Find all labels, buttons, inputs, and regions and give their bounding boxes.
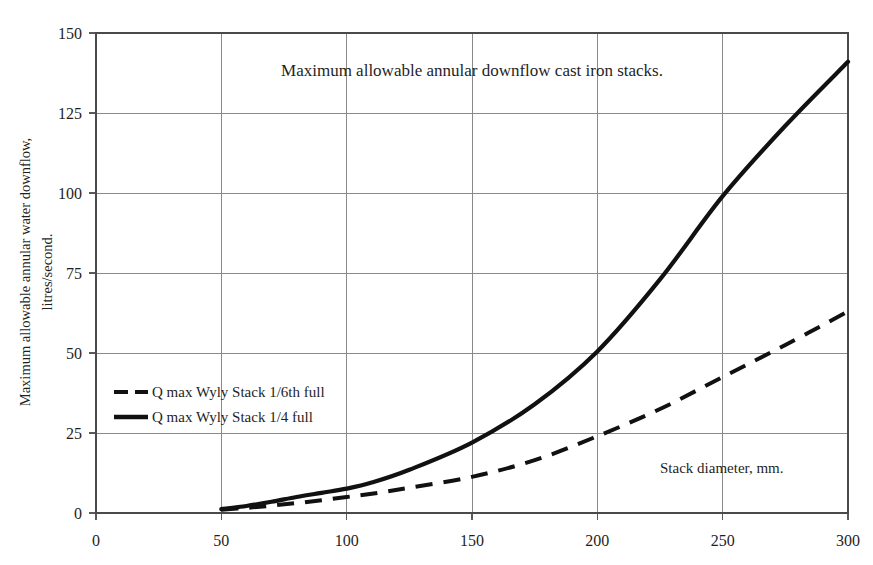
chart-title: Maximum allowable annular downflow cast … [281,61,663,80]
y-tick-label: 150 [58,25,82,42]
line-chart: 050100150200250300 0255075100125150 Maxi… [0,0,873,565]
y-tick-label: 25 [66,425,82,442]
x-tick-label: 300 [836,532,860,549]
y-tick-label: 125 [58,105,82,122]
y-tick-label: 50 [66,345,82,362]
x-tick-label: 0 [92,532,100,549]
y-tick-label: 75 [66,265,82,282]
x-tick-label: 50 [213,532,229,549]
legend-label-0: Q max Wyly Stack 1/6th full [152,384,325,400]
x-tick-label: 150 [460,532,484,549]
x-tick-label: 100 [335,532,359,549]
y-axis-label-line2: litres/second. [39,234,55,311]
chart-background [0,0,873,565]
legend-label-1: Q max Wyly Stack 1/4 full [152,409,313,425]
x-tick-label: 200 [585,532,609,549]
x-tick-label: 250 [711,532,735,549]
chart-figure: 050100150200250300 0255075100125150 Maxi… [0,0,873,565]
y-tick-label: 100 [58,185,82,202]
y-axis-label-line1: Maximum allowable annular water downflow… [17,138,33,406]
x-axis-label: Stack diameter, mm. [660,460,784,476]
y-tick-label: 0 [74,505,82,522]
